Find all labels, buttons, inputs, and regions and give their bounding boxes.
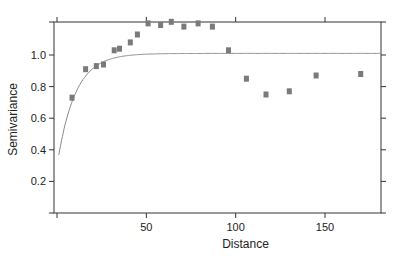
data-point (101, 62, 106, 68)
fitted-model-curve (59, 53, 381, 154)
data-point (169, 19, 174, 25)
x-tick-label: 100 (226, 221, 244, 233)
data-point (226, 47, 231, 53)
y-tick-label: 0.6 (31, 112, 46, 124)
data-point (244, 76, 249, 82)
data-point (117, 46, 122, 52)
x-tick-label: 150 (316, 221, 334, 233)
y-axis-title: Semivariance (6, 83, 20, 156)
y-tick-label: 1.0 (31, 49, 46, 61)
data-point (146, 20, 151, 26)
y-axis: 0.20.40.60.81.0 (31, 22, 386, 213)
data-point (158, 22, 163, 28)
x-axis: 50100150 (57, 17, 334, 233)
plot-frame (54, 22, 381, 213)
data-point (196, 20, 201, 26)
x-tick-label: 50 (140, 221, 152, 233)
data-point (112, 47, 117, 53)
data-point (287, 88, 292, 94)
data-point (135, 32, 140, 38)
data-point (314, 73, 319, 79)
variogram-chart: 50100150 0.20.40.60.81.0 Distance Semiva… (0, 0, 400, 261)
data-point (128, 39, 133, 45)
y-tick-label: 0.2 (31, 175, 46, 187)
x-axis-title: Distance (222, 237, 269, 251)
data-point (181, 24, 186, 30)
data-point (83, 66, 88, 72)
data-point (264, 92, 269, 98)
data-point (358, 71, 363, 77)
y-tick-label: 0.8 (31, 81, 46, 93)
data-point (210, 24, 215, 30)
y-tick-label: 0.4 (31, 144, 46, 156)
data-point (70, 95, 75, 101)
data-points (70, 19, 364, 101)
data-point (94, 63, 99, 69)
